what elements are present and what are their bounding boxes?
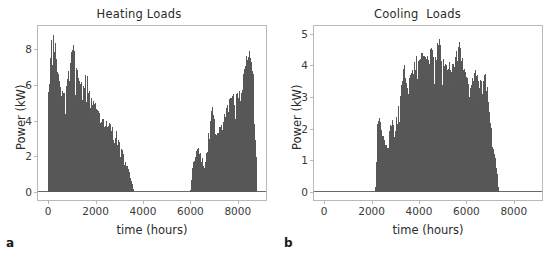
y-tick-label: 0 bbox=[10, 186, 32, 198]
x-tick-label: 2000 bbox=[358, 205, 385, 217]
y-tick-label: 2 bbox=[286, 123, 308, 135]
y-tick-mark bbox=[310, 97, 313, 98]
x-tick-mark bbox=[419, 201, 420, 204]
x-tick-mark bbox=[96, 201, 97, 204]
y-tick-mark bbox=[310, 65, 313, 66]
x-tick-label: 6000 bbox=[453, 205, 480, 217]
cooling-load-series bbox=[314, 26, 542, 200]
x-tick-mark bbox=[514, 201, 515, 204]
panel-letter-a: a bbox=[6, 236, 14, 250]
x-tick-label: 4000 bbox=[130, 205, 157, 217]
plot-area-heating bbox=[37, 25, 267, 201]
y-tick-label: 0 bbox=[286, 186, 308, 198]
heating-load-series bbox=[38, 26, 266, 200]
y-tick-mark bbox=[34, 85, 37, 86]
x-tick-mark bbox=[190, 201, 191, 204]
x-tick-mark bbox=[372, 201, 373, 204]
y-tick-mark bbox=[34, 49, 37, 50]
y-tick-mark bbox=[34, 121, 37, 122]
x-axis-label-cooling: time (hours) bbox=[313, 223, 543, 237]
y-tick-label: 1 bbox=[286, 154, 308, 166]
y-tick-label: 3 bbox=[286, 91, 308, 103]
x-tick-mark bbox=[466, 201, 467, 204]
y-tick-mark bbox=[34, 192, 37, 193]
x-axis-label-heating: time (hours) bbox=[37, 223, 267, 237]
x-tick-mark bbox=[238, 201, 239, 204]
x-tick-label: 8000 bbox=[500, 205, 527, 217]
chart-title-cooling: Cooling Loads bbox=[278, 7, 557, 21]
panel-letter-b: b bbox=[284, 236, 293, 250]
x-tick-mark bbox=[48, 201, 49, 204]
y-tick-label: 4 bbox=[286, 59, 308, 71]
plot-area-cooling bbox=[313, 25, 543, 201]
y-tick-label: 6 bbox=[10, 79, 32, 91]
figure: Heating Loads Power (kW) time (hours) a … bbox=[0, 0, 557, 261]
y-tick-mark bbox=[310, 160, 313, 161]
y-tick-mark bbox=[310, 129, 313, 130]
panel-cooling-loads: Cooling Loads Power (kW) time (hours) 01… bbox=[278, 0, 557, 261]
x-tick-label: 6000 bbox=[177, 205, 204, 217]
x-tick-label: 0 bbox=[45, 205, 52, 217]
x-tick-label: 4000 bbox=[406, 205, 433, 217]
panel-heating-loads: Heating Loads Power (kW) time (hours) a … bbox=[0, 0, 278, 261]
x-tick-label: 8000 bbox=[224, 205, 251, 217]
y-tick-label: 8 bbox=[10, 43, 32, 55]
x-tick-label: 2000 bbox=[82, 205, 109, 217]
y-tick-label: 4 bbox=[10, 115, 32, 127]
y-tick-mark bbox=[310, 34, 313, 35]
y-tick-label: 5 bbox=[286, 28, 308, 40]
chart-title-heating: Heating Loads bbox=[0, 7, 278, 21]
y-tick-mark bbox=[34, 156, 37, 157]
x-tick-mark bbox=[324, 201, 325, 204]
x-tick-label: 0 bbox=[321, 205, 328, 217]
y-tick-label: 2 bbox=[10, 150, 32, 162]
y-tick-mark bbox=[310, 192, 313, 193]
x-tick-mark bbox=[143, 201, 144, 204]
